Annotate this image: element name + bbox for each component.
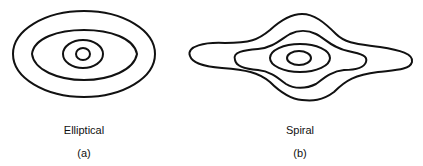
spiral-sublabel: (b): [293, 147, 306, 159]
elliptical-contour-third: [63, 40, 103, 68]
spiral-caption: Spiral: [286, 124, 314, 136]
elliptical-contours: [13, 11, 155, 97]
spiral-contour-inner: [287, 51, 311, 65]
elliptical-sublabel: (a): [77, 147, 90, 159]
elliptical-contour-outer: [13, 11, 155, 97]
elliptical-contour-inner: [76, 48, 90, 60]
elliptical-caption: Elliptical: [64, 124, 104, 136]
spiral-contour-third: [270, 44, 330, 72]
elliptical-contour-second: [32, 30, 137, 80]
spiral-contours: [189, 14, 412, 100]
contour-diagram: [0, 0, 423, 166]
